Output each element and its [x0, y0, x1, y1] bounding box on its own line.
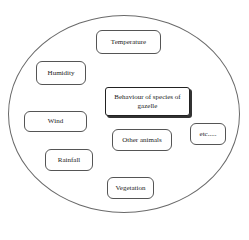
node-label: Vegetation	[116, 184, 146, 193]
node-humidity: Humidity	[36, 61, 86, 85]
node-label: Rainfall	[58, 156, 81, 165]
node-label: Humidity	[48, 69, 75, 78]
node-rainfall: Rainfall	[45, 149, 93, 171]
node-wind: Wind	[24, 111, 87, 132]
node-label: Wind	[48, 117, 63, 126]
node-temperature: Temperature	[96, 30, 161, 54]
node-label: Other animals	[122, 136, 161, 145]
center-label: Behaviour of species of gazelle	[114, 93, 181, 111]
node-other-animals: Other animals	[112, 129, 172, 151]
node-etc: etc.....	[190, 123, 226, 145]
node-vegetation: Vegetation	[107, 177, 154, 199]
node-center-behaviour: Behaviour of species of gazelle	[105, 87, 190, 116]
node-label: Temperature	[111, 38, 146, 47]
node-label: etc.....	[200, 130, 217, 139]
